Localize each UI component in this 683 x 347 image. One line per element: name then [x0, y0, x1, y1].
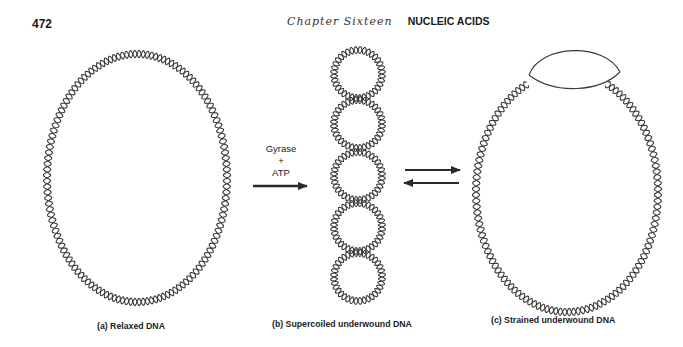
caption-supercoiled-dna: (b) Supercoiled underwound DNA: [272, 318, 412, 329]
atp-label: ATP: [246, 167, 316, 179]
gyrase-atp-label: Gyrase + ATP: [246, 143, 316, 179]
plus-sign: +: [246, 155, 316, 167]
caption-relaxed-dna: (a) Relaxed DNA: [97, 320, 165, 331]
dna-topology-figure: [0, 0, 683, 347]
melted-bubble: [529, 51, 620, 89]
strained-dna-circle: [472, 82, 661, 316]
relaxed-dna-circle: [43, 50, 230, 305]
caption-strained-dna: (c) Strained underwound DNA: [491, 314, 615, 325]
enzyme-label: Gyrase: [246, 143, 316, 155]
supercoiled-dna: [331, 47, 386, 305]
